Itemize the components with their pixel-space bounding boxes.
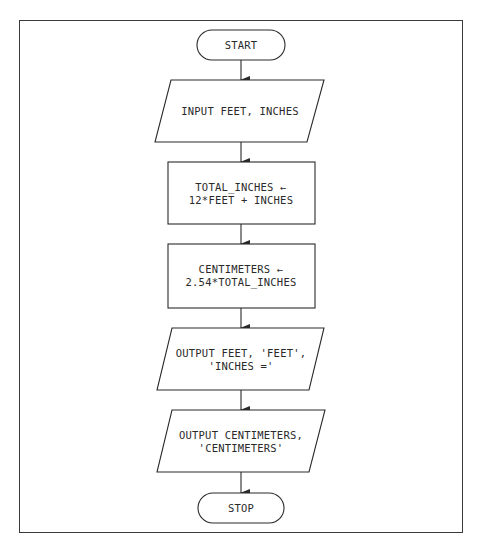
node-label-line-2: 'INCHES =' [208, 360, 273, 372]
node-label: STOP [228, 502, 254, 514]
node-output-centimeters: OUTPUT CENTIMETERS, 'CENTIMETERS' [157, 410, 325, 472]
process-shape [168, 162, 315, 224]
node-label-line-1: CENTIMETERS ← [199, 263, 284, 275]
parallelogram-shape [157, 410, 325, 472]
node-start: START [197, 30, 285, 60]
node-label-line-1: TOTAL_INCHES ← [195, 181, 286, 194]
node-label-line-1: OUTPUT FEET, 'FEET', [176, 347, 306, 359]
node-total-inches: TOTAL_INCHES ← 12*FEET + INCHES [168, 162, 315, 224]
node-centimeters: CENTIMETERS ← 2.54*TOTAL_INCHES [168, 244, 315, 308]
node-label-line-2: 12*FEET + INCHES [189, 194, 293, 206]
flowchart-svg: START INPUT FEET, INCHES TOTAL_INCHES ← … [0, 0, 481, 551]
parallelogram-shape [157, 328, 324, 390]
node-label: START [225, 39, 258, 51]
node-label-line-2: 'CENTIMETERS' [199, 442, 284, 454]
node-label-line-2: 2.54*TOTAL_INCHES [186, 276, 297, 289]
node-stop: STOP [198, 493, 284, 523]
node-output-feet: OUTPUT FEET, 'FEET', 'INCHES =' [157, 328, 324, 390]
node-label: INPUT FEET, INCHES [181, 105, 298, 117]
flowchart-canvas: START INPUT FEET, INCHES TOTAL_INCHES ← … [0, 0, 481, 551]
node-input: INPUT FEET, INCHES [155, 80, 324, 142]
node-label-line-1: OUTPUT CENTIMETERS, [179, 429, 303, 441]
